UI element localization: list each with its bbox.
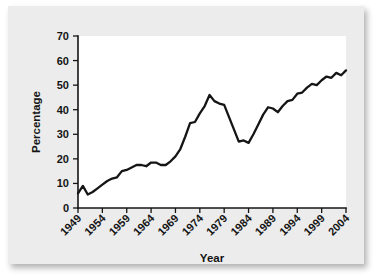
x-tick-label: 1979 [204, 212, 230, 238]
y-axis-tick-labels: 010203040506070 [57, 30, 69, 214]
y-tick-label: 30 [57, 128, 69, 140]
x-tick-label: 1974 [179, 211, 205, 237]
x-tick-label: 1959 [106, 212, 132, 238]
line-chart: 010203040506070 194919541959196419691974… [0, 0, 378, 276]
chart-figure: 010203040506070 194919541959196419691974… [0, 0, 378, 276]
y-tick-label: 10 [57, 177, 69, 189]
x-axis-tick-labels: 1949195419591964196919741979198419891994… [58, 211, 352, 237]
x-tick-label: 1964 [131, 211, 157, 237]
y-tick-label: 60 [57, 55, 69, 67]
x-tick-label: 1999 [301, 212, 327, 238]
x-tick-label: 1984 [228, 211, 254, 237]
y-tick-label: 50 [57, 79, 69, 91]
x-tick-label: 1969 [155, 212, 181, 238]
x-tick-label: 1949 [58, 212, 84, 238]
y-tick-label: 20 [57, 153, 69, 165]
y-tick-label: 70 [57, 30, 69, 42]
x-tick-label: 1994 [277, 211, 303, 237]
x-tick-label: 2004 [326, 211, 352, 237]
x-tick-label: 1989 [253, 212, 279, 238]
x-axis-label: Year [200, 252, 225, 264]
x-tick-label: 1954 [82, 211, 108, 237]
plot-area-background [78, 36, 346, 208]
y-tick-label: 0 [63, 202, 69, 214]
y-tick-label: 40 [57, 104, 69, 116]
y-axis-label: Percentage [30, 91, 42, 153]
